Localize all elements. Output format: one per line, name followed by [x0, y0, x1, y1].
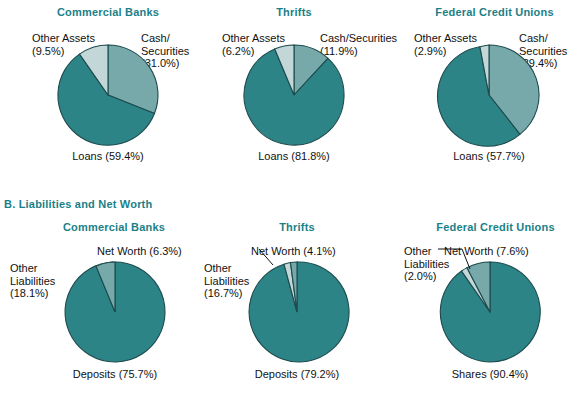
pie-svg: [247, 262, 347, 362]
slice-label-loans: Loans (59.4%): [48, 150, 168, 163]
pie-liabilities-thrifts: [247, 262, 347, 362]
pie-svg: [58, 45, 158, 145]
slice-label-other-liabilities: Other Liabilities (16.7%): [204, 262, 249, 300]
pie-liabilities-commercial-banks: [65, 262, 165, 362]
panel-title: Commercial Banks: [38, 6, 178, 18]
slice-label-deposits: Deposits (79.2%): [237, 368, 357, 381]
panel-title: Federal Credit Unions: [412, 6, 577, 18]
leader-line-other-liabilities: [440, 247, 500, 281]
pie-assets-commercial-banks: [58, 45, 158, 145]
leader-line-net-worth: [247, 247, 307, 277]
panel-title: Thrifts: [234, 6, 354, 18]
panel-title: Thrifts: [237, 221, 357, 233]
panel-title: Commercial Banks: [44, 221, 184, 233]
slice-label-deposits: Deposits (75.7%): [55, 368, 175, 381]
pie-assets-thrifts: [244, 45, 344, 145]
slice-label-net-worth: Net Worth (6.3%): [97, 245, 182, 258]
pie-svg: [244, 45, 344, 145]
panel-title: Federal Credit Unions: [413, 221, 578, 233]
slice-label-loans: Loans (81.8%): [234, 150, 354, 163]
pie-svg: [439, 45, 539, 145]
slice-label-loans: Loans (57.7%): [429, 150, 549, 163]
pie-svg: [65, 262, 165, 362]
slice-label-shares: Shares (90.4%): [430, 368, 550, 381]
slice-label-other-liabilities: Other Liabilities (18.1%): [10, 262, 55, 300]
pie-chart-figure: Commercial Banks Other Assets (9.5%) Cas…: [0, 0, 588, 393]
section-heading-liabilities: B. Liabilities and Net Worth: [4, 198, 152, 210]
pie-assets-federal-credit-unions: [439, 45, 539, 145]
